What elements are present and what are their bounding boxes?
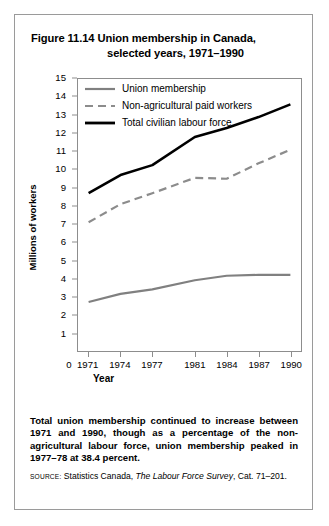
x-tick-mark-1971 (88, 352, 89, 357)
y-tick-label-8: 8 (36, 201, 66, 211)
x-tick-label-1987: 1987 (248, 359, 269, 370)
legend-item-total-civilian-labour-force: Total civilian labour force (85, 114, 300, 131)
y-tick-label-6: 6 (36, 238, 66, 248)
legend-swatch-icon (85, 101, 115, 111)
chart-area: Millions of workers 12345678910111213141… (15, 72, 312, 388)
legend-label: Non-agricultural paid workers (122, 100, 252, 111)
y-tick-label-12: 12 (36, 128, 66, 138)
y-tick-label-9: 9 (36, 183, 66, 193)
figure-title-line-1: Figure 11.14 Union membership in Canada, (29, 31, 298, 46)
y-tick-label-3: 3 (36, 292, 66, 302)
x-tick-label-1974: 1974 (109, 359, 130, 370)
y-tick-label-11: 11 (36, 146, 66, 156)
y-tick-label-13: 13 (36, 110, 66, 120)
source-title: The Labour Force Survey (136, 471, 233, 481)
x-tick-label-1977: 1977 (141, 359, 162, 370)
y-tick-label-10: 10 (36, 165, 66, 175)
figure-container: Figure 11.14 Union membership in Canada,… (14, 14, 313, 510)
x-tick-label-1981: 1981 (184, 359, 205, 370)
y-tick-label-7: 7 (36, 219, 66, 229)
legend-item-union-membership: Union membership (85, 80, 300, 97)
legend-swatch-icon (85, 118, 115, 128)
y-tick-label-1: 1 (36, 329, 66, 339)
x-tick-mark-1974 (120, 352, 121, 357)
legend-label: Union membership (122, 83, 206, 94)
x-tick-mark-1987 (259, 352, 260, 357)
y-tick-label-2: 2 (36, 311, 66, 321)
figure-caption: Total union membership continued to incr… (30, 415, 298, 465)
y-tick-label-14: 14 (36, 91, 66, 101)
figure-source: SOURCE: Statistics Canada, The Labour Fo… (30, 471, 306, 482)
x-tick-label-1990: 1990 (281, 359, 302, 370)
x-tick-mark-1984 (227, 352, 228, 357)
figure-title: Figure 11.14 Union membership in Canada,… (29, 31, 298, 61)
chart-legend: Union membershipNon-agricultural paid wo… (85, 80, 300, 131)
x-tick-label-1971: 1971 (77, 359, 98, 370)
figure-title-line-2: selected years, 1971–1990 (29, 46, 298, 61)
x-tick-mark-1990 (291, 352, 292, 357)
x-tick-mark-1981 (195, 352, 196, 357)
legend-label: Total civilian labour force (122, 117, 232, 128)
legend-item-non-agricultural-paid-workers: Non-agricultural paid workers (85, 97, 300, 114)
source-publisher: Statistics Canada, (64, 471, 133, 481)
y-tick-label-15: 15 (36, 73, 66, 83)
x-axis-title: Year (93, 373, 114, 384)
source-catalogue: , Cat. 71–201. (233, 471, 287, 481)
legend-swatch-icon (85, 84, 115, 94)
y-tick-label-4: 4 (36, 274, 66, 284)
x-tick-mark-1977 (152, 352, 153, 357)
series-line-union-membership (89, 275, 291, 302)
source-kicker: SOURCE: (30, 473, 61, 480)
x-tick-label-0: 0 (66, 359, 71, 370)
y-tick-label-5: 5 (36, 256, 66, 266)
x-tick-label-1984: 1984 (216, 359, 237, 370)
series-line-non-agricultural-paid-workers (89, 150, 291, 223)
